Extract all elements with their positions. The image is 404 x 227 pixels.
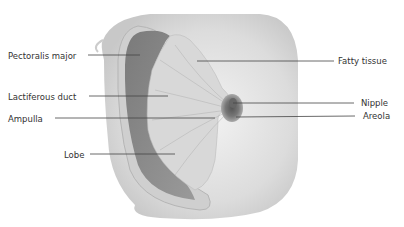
breast-anatomy-diagram: Pectoralis major Lactiferous duct Ampull… xyxy=(0,0,404,227)
label-ampulla: Ampulla xyxy=(8,114,43,124)
label-nipple: Nipple xyxy=(361,98,388,108)
label-fatty-tissue: Fatty tissue xyxy=(338,56,387,66)
label-pectoralis-major: Pectoralis major xyxy=(8,51,76,61)
label-lobe: Lobe xyxy=(64,150,84,160)
label-areola: Areola xyxy=(363,111,390,121)
anatomy-illustration xyxy=(0,0,404,227)
label-lactiferous-duct: Lactiferous duct xyxy=(8,92,76,102)
